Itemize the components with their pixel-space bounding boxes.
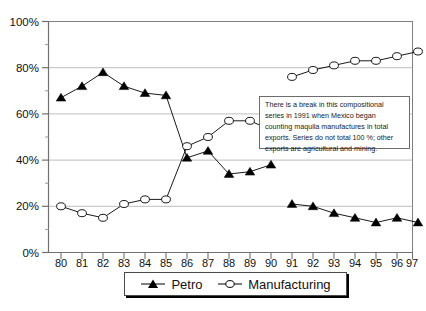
data-point-marker-circle (288, 73, 297, 80)
x-tick-label: 84 (139, 257, 151, 269)
legend-label-manufacturing: Manufacturing (248, 277, 330, 292)
note-line: counting maquila manufactures in total (265, 122, 405, 133)
note-line: There is a break in this compositional (265, 100, 405, 111)
data-point-marker-circle (120, 201, 129, 208)
data-point-marker-circle (162, 196, 171, 203)
data-point-marker-circle (57, 203, 66, 210)
note-line: series in 1991 when Mexico began (265, 111, 405, 122)
data-point-marker-circle (414, 48, 423, 55)
data-point-marker-circle (330, 62, 339, 69)
chart-container: 0% 20% 40% 60% 80% 100% (0, 0, 426, 311)
x-tick-label: 88 (223, 257, 235, 269)
note-line: exports. Series do not total 100 %; othe… (265, 133, 405, 144)
data-point-marker-circle (372, 57, 381, 64)
x-tick-label: 91 (286, 257, 298, 269)
chart-plot-area: 0% 20% 40% 60% 80% 100% (0, 0, 426, 311)
x-tick-label: 86 (181, 257, 193, 269)
data-point-marker-circle (99, 214, 108, 221)
y-tick-label: 60% (16, 108, 39, 120)
x-axis-tick-labels: 80 81 82 83 84 85 86 87 88 89 90 91 92 9… (55, 257, 418, 269)
legend-item-manufacturing[interactable]: Manufacturing (217, 277, 330, 292)
x-tick-label: 93 (328, 257, 340, 269)
x-tick-label: 81 (76, 257, 88, 269)
x-tick-label: 97 (406, 257, 418, 269)
open-circle-icon (217, 278, 243, 290)
filled-triangle-icon (140, 278, 166, 290)
y-tick-label: 0% (22, 247, 39, 259)
y-tick-label: 80% (16, 62, 39, 74)
data-point-marker-circle (351, 57, 360, 64)
data-point-marker-circle (246, 117, 255, 124)
chart-legend: Petro Manufacturing (124, 272, 347, 296)
data-point-marker-circle (309, 67, 318, 74)
legend-label-petro: Petro (171, 277, 202, 292)
x-tick-label: 95 (370, 257, 382, 269)
y-tick-label: 20% (16, 200, 39, 212)
x-tick-label: 89 (244, 257, 256, 269)
legend-item-petro[interactable]: Petro (140, 277, 202, 292)
x-tick-label: 90 (265, 257, 277, 269)
data-point-marker-circle (393, 53, 402, 60)
data-point-marker-circle (225, 117, 234, 124)
x-tick-label: 83 (118, 257, 130, 269)
data-point-marker-circle (78, 210, 87, 217)
x-tick-label: 80 (55, 257, 67, 269)
x-tick-label: 96 (391, 257, 403, 269)
x-tick-label: 85 (160, 257, 172, 269)
break-annotation-note: There is a break in this compositional s… (259, 96, 410, 149)
y-axis-tick-labels: 0% 20% 40% 60% 80% 100% (10, 16, 39, 259)
data-point-marker-circle (183, 143, 192, 150)
y-tick-label: 40% (16, 154, 39, 166)
x-tick-label: 87 (202, 257, 214, 269)
data-point-marker-circle (141, 196, 150, 203)
x-tick-label: 92 (307, 257, 319, 269)
y-tick-label: 100% (10, 16, 39, 28)
note-line: exports are agricultural and mining. (265, 144, 405, 155)
data-point-marker-circle (204, 134, 213, 141)
x-tick-label: 94 (349, 257, 361, 269)
x-tick-label: 82 (97, 257, 109, 269)
